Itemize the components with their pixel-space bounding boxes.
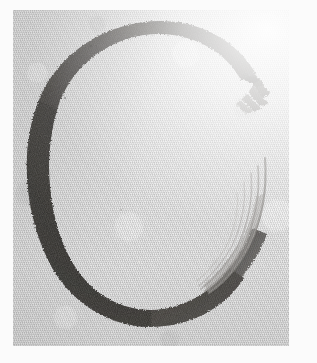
- paper-flecks: [64, 45, 164, 273]
- paper-sheet: [13, 10, 289, 346]
- ink-speckle: [27, 21, 256, 327]
- enso-painting: [13, 10, 289, 346]
- artwork-viewer: Enso A dark ink brush-painted circle, op…: [0, 0, 317, 363]
- enso-circle-svg: [13, 10, 289, 346]
